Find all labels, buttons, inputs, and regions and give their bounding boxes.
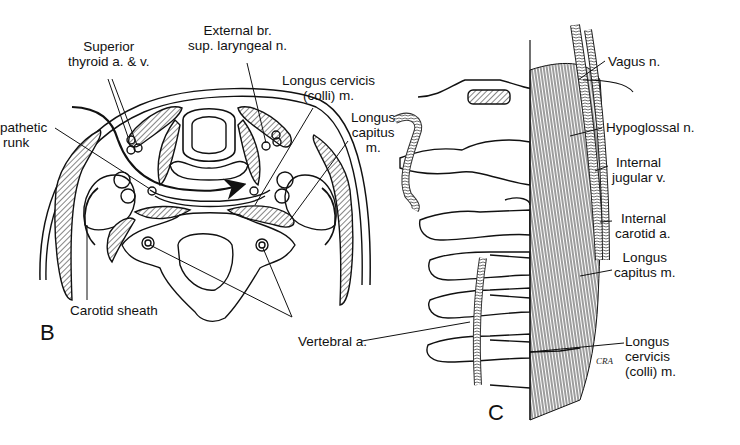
label-sympathetic-trunk: pathetic runk bbox=[0, 120, 47, 150]
label-line: (colli) m. bbox=[625, 364, 676, 379]
label-longus-cervicis-c: Longus cervicis (colli) m. bbox=[625, 334, 676, 379]
label-vertebral-artery: Vertebral a. bbox=[298, 334, 367, 349]
label-line: Superior bbox=[68, 39, 150, 54]
label-carotid-sheath: Carotid sheath bbox=[70, 303, 158, 318]
label-line: jugular v. bbox=[612, 170, 666, 185]
label-longus-capitus-b: Longus capitus m. bbox=[351, 110, 395, 155]
label-line: capitus bbox=[351, 125, 395, 140]
label-line: sup. laryngeal n. bbox=[188, 38, 287, 53]
label-superior-thyroid: Superior thyroid a. & v. bbox=[68, 39, 150, 69]
label-internal-carotid: Internal carotid a. bbox=[615, 211, 671, 241]
label-line: Internal bbox=[612, 155, 666, 170]
label-external-branch: External br. sup. laryngeal n. bbox=[188, 23, 287, 53]
label-line: capitus m. bbox=[614, 265, 676, 280]
label-line: Longus cervicis bbox=[282, 73, 375, 88]
panel-label-b: B bbox=[40, 322, 55, 344]
label-line: runk bbox=[0, 135, 47, 150]
label-line: External br. bbox=[188, 23, 287, 38]
label-line: Internal bbox=[615, 211, 671, 226]
svg-text:CRA: CRA bbox=[596, 356, 614, 366]
label-line: (colli) m. bbox=[282, 88, 375, 103]
label-internal-jugular: Internal jugular v. bbox=[612, 155, 666, 185]
label-line: m. bbox=[351, 140, 395, 155]
label-line: Longus bbox=[614, 250, 676, 265]
label-line: carotid a. bbox=[615, 226, 671, 241]
panel-c-lateral-view: CRA bbox=[362, 25, 633, 420]
label-longus-cervicis-b: Longus cervicis (colli) m. bbox=[282, 73, 375, 103]
label-line: Longus bbox=[351, 110, 395, 125]
label-longus-capitus-c: Longus capitus m. bbox=[614, 250, 676, 280]
label-line: thyroid a. & v. bbox=[68, 54, 150, 69]
panel-label-c: C bbox=[488, 402, 504, 424]
label-line: pathetic bbox=[0, 120, 47, 135]
label-vagus: Vagus n. bbox=[608, 54, 660, 69]
label-line: Longus bbox=[625, 334, 676, 349]
label-hypoglossal: Hypoglossal n. bbox=[606, 120, 695, 135]
label-line: cervicis bbox=[625, 349, 676, 364]
